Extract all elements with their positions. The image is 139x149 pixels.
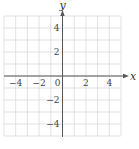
coordinate-plane: x y −4−2024 42−2−4 [0, 0, 139, 149]
x-tick-label: −4 [9, 78, 23, 88]
x-axis-label: x [130, 70, 137, 83]
y-tick-label: 2 [54, 47, 60, 57]
y-tick-label: −2 [46, 95, 59, 105]
axes [4, 10, 129, 137]
y-tick-label: −4 [46, 119, 60, 129]
y-axis-label: y [59, 0, 67, 12]
x-tick-label: −2 [32, 78, 45, 88]
x-tick-label: 0 [55, 78, 61, 88]
x-tick-label: 2 [83, 78, 89, 88]
x-tick-label: 4 [106, 78, 112, 88]
x-tick-labels: −4−2024 [9, 78, 112, 88]
y-tick-label: 4 [54, 23, 60, 33]
x-axis-arrow-icon [123, 74, 129, 78]
